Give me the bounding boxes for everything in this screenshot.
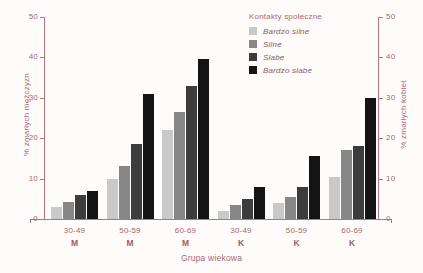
bar-group <box>162 17 209 219</box>
bar <box>242 199 253 219</box>
bar <box>143 94 154 219</box>
y-axis-right-title: % zmarłych kobiet <box>399 45 408 185</box>
y-tick-label-left: 50 <box>29 12 38 21</box>
bar <box>341 150 352 219</box>
y-tick-label-right: 50 <box>386 12 395 21</box>
x-axis-line <box>30 219 392 220</box>
bar <box>285 197 296 219</box>
bar <box>186 86 197 219</box>
legend-item: Silne <box>249 38 322 50</box>
y-tick-right <box>379 57 383 58</box>
x-group-sex-label: M <box>156 238 216 248</box>
y-tick-right <box>379 17 383 18</box>
y-tick-left <box>40 138 44 139</box>
legend: Kontakty społeczne Bardzo silneSilneSłab… <box>249 12 322 77</box>
x-group-age-label: 30-49 <box>211 226 271 235</box>
bar <box>309 156 320 219</box>
bar <box>218 211 229 219</box>
bar <box>230 205 241 219</box>
y-tick-label-right: 20 <box>386 133 395 142</box>
y-tick-right <box>379 98 383 99</box>
x-axis-end-tick <box>391 219 392 223</box>
bar <box>297 187 308 219</box>
y-tick-label-right: 0 <box>386 214 391 223</box>
y-axis-right-line <box>378 17 379 220</box>
x-group-sex-label: K <box>267 238 327 248</box>
legend-entries: Bardzo silneSilneSłabeBardzo słabe <box>249 25 322 76</box>
bar-group <box>329 17 376 219</box>
legend-swatch <box>249 27 257 35</box>
bar-group <box>107 17 154 219</box>
bar <box>353 146 364 219</box>
y-tick-left <box>40 179 44 180</box>
bar <box>365 98 376 219</box>
y-tick-left <box>40 17 44 18</box>
x-group-age-label: 30-49 <box>45 226 105 235</box>
bar <box>162 130 173 219</box>
bar <box>119 166 130 219</box>
legend-swatch <box>249 66 257 74</box>
y-tick-right <box>379 219 383 220</box>
bar <box>107 179 118 219</box>
y-tick-right <box>379 138 383 139</box>
bar <box>63 202 74 219</box>
bar <box>254 187 265 219</box>
y-tick-label-left: 0 <box>33 214 38 223</box>
bar-chart: 0010102020303040405050 % zmarłych mężczy… <box>0 0 423 273</box>
legend-swatch <box>249 40 257 48</box>
bar-group <box>51 17 98 219</box>
y-axis-left-title: % zmarłych mężczyzn <box>22 45 31 185</box>
x-group-age-label: 60-69 <box>322 226 382 235</box>
x-group-sex-label: M <box>45 238 105 248</box>
y-tick-left <box>40 219 44 220</box>
legend-item: Słabe <box>249 51 322 63</box>
y-tick-label-right: 40 <box>386 52 395 61</box>
x-axis-end-tick <box>30 219 31 223</box>
bar <box>273 203 284 219</box>
legend-label: Silne <box>263 40 282 49</box>
bar <box>51 207 62 219</box>
x-group-age-label: 60-69 <box>156 226 216 235</box>
x-group-sex-label: K <box>322 238 382 248</box>
y-tick-left <box>40 98 44 99</box>
y-tick-left <box>40 57 44 58</box>
legend-item: Bardzo słabe <box>249 64 322 76</box>
bar <box>329 177 340 219</box>
legend-label: Bardzo silne <box>263 27 309 36</box>
plot-area <box>45 17 378 219</box>
x-group-sex-label: M <box>100 238 160 248</box>
x-group-age-label: 50-59 <box>100 226 160 235</box>
legend-label: Słabe <box>263 53 284 62</box>
bar <box>174 112 185 219</box>
y-tick-label-right: 10 <box>386 174 395 183</box>
legend-title: Kontakty społeczne <box>249 12 322 21</box>
bar <box>87 191 98 219</box>
legend-label: Bardzo słabe <box>263 66 312 75</box>
y-tick-label-right: 30 <box>386 93 395 102</box>
legend-item: Bardzo silne <box>249 25 322 37</box>
bar <box>198 59 209 219</box>
x-axis-title: Grupa wiekowa <box>0 253 423 263</box>
bar <box>131 144 142 219</box>
x-group-age-label: 50-59 <box>267 226 327 235</box>
y-tick-right <box>379 179 383 180</box>
bar <box>75 195 86 219</box>
legend-swatch <box>249 53 257 61</box>
x-group-sex-label: K <box>211 238 271 248</box>
